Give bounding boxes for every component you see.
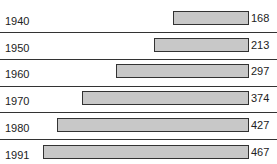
chart-row-1950: 1950 213	[0, 32, 277, 59]
category-label: 1980	[5, 122, 29, 134]
category-label: 1950	[5, 42, 29, 54]
bar-1960	[116, 64, 249, 78]
chart-row-1970: 1970 374	[0, 86, 277, 113]
category-label: 1960	[5, 68, 29, 80]
value-label: 213	[251, 39, 269, 51]
chart-row-1940: 1940 168	[0, 0, 277, 27]
value-label: 427	[251, 119, 269, 131]
value-label: 168	[251, 12, 269, 24]
chart-row-1980: 1980 427	[0, 112, 277, 139]
category-label: 1940	[5, 15, 29, 27]
value-label: 467	[251, 146, 269, 158]
bar-1940	[173, 11, 249, 25]
category-label: 1970	[5, 95, 29, 107]
bar-1970	[82, 91, 249, 105]
value-label: 297	[251, 65, 269, 77]
value-label: 374	[251, 92, 269, 104]
chart-row-1960: 1960 297	[0, 59, 277, 86]
chart-row-1991: 1991 467	[0, 139, 277, 164]
category-label: 1991	[5, 149, 29, 161]
bar-1980	[57, 118, 249, 132]
bar-1991	[43, 145, 249, 159]
bar-1950	[154, 38, 249, 52]
